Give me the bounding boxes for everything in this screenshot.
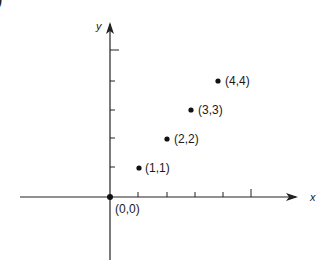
point-4-4 (215, 78, 220, 83)
data-points (107, 78, 221, 200)
label-2-2: (2,2) (174, 132, 199, 146)
label-0-0: (0,0) (115, 202, 140, 216)
y-axis-label: y (95, 20, 103, 32)
label-1-1: (1,1) (145, 161, 170, 175)
x-axis-label: x (309, 191, 316, 203)
x-axis-ticks (138, 189, 251, 197)
point-3-3 (188, 107, 193, 112)
y-axis-ticks (110, 50, 119, 167)
point-1-1 (136, 165, 141, 170)
label-4-4: (4,4) (225, 74, 250, 88)
scatter-chart: x y (0,0) (1,1) (2,2) (3,3) (4,4) (0, 0, 333, 273)
point-0-0 (107, 194, 113, 200)
label-3-3: (3,3) (198, 103, 223, 117)
point-2-2 (164, 136, 169, 141)
